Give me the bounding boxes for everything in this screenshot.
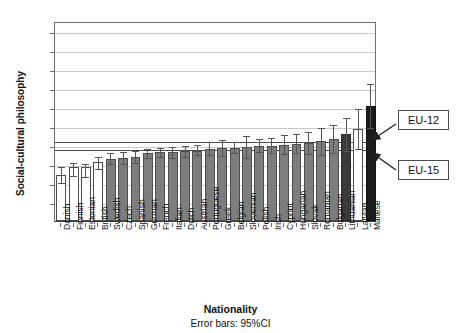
x-tick-label-german: German	[150, 199, 159, 230]
error-bar	[246, 136, 247, 158]
error-bar	[73, 163, 74, 176]
x-tick-label-romanian: Romanian	[323, 191, 332, 230]
chart-caption: Error bars: 95%CI	[0, 318, 461, 329]
error-cap-upper	[219, 140, 226, 141]
x-tick	[147, 223, 148, 227]
error-cap-lower	[58, 183, 65, 184]
error-bar	[135, 151, 136, 162]
error-bar	[147, 149, 148, 159]
x-tick-label-swedish: Swedish	[113, 198, 122, 230]
error-cap-lower	[343, 151, 350, 152]
error-cap-lower	[318, 155, 325, 156]
error-cap-upper	[157, 148, 164, 149]
error-cap-lower	[144, 158, 151, 159]
error-cap-upper	[268, 138, 275, 139]
x-tick	[73, 223, 74, 227]
bar-group	[267, 21, 277, 221]
error-cap-lower	[169, 158, 176, 159]
error-bar	[346, 118, 347, 150]
error-cap-lower	[182, 157, 189, 158]
error-cap-lower	[243, 158, 250, 159]
x-tick-label-danish: Danish	[63, 204, 72, 230]
error-bar	[110, 153, 111, 163]
error-cap-upper	[206, 142, 213, 143]
error-cap-upper	[169, 147, 176, 148]
error-bar	[271, 138, 272, 153]
x-tick	[357, 223, 358, 227]
error-cap-upper	[231, 142, 238, 143]
x-tick	[296, 223, 297, 227]
y-tick	[50, 71, 55, 72]
bar-group	[192, 21, 202, 221]
error-cap-lower	[355, 149, 362, 150]
x-tick	[283, 223, 284, 227]
x-tick	[135, 223, 136, 227]
error-cap-upper	[70, 163, 77, 164]
error-bar	[284, 135, 285, 154]
x-tick-label-french: French	[162, 204, 171, 230]
x-tick-label-czech: Czech	[125, 206, 134, 230]
error-cap-lower	[256, 152, 263, 153]
y-tick	[50, 128, 55, 129]
error-bar	[123, 152, 124, 163]
x-tick-label-dutch: Dutch	[187, 208, 196, 230]
error-bar	[259, 139, 260, 152]
error-cap-upper	[281, 135, 288, 136]
error-bar	[172, 147, 173, 158]
error-cap-lower	[120, 164, 127, 165]
y-tick	[50, 33, 55, 34]
bar-group	[168, 21, 178, 221]
y-tick	[50, 204, 55, 205]
bar-group	[155, 21, 165, 221]
bar-group	[366, 21, 376, 221]
x-tick	[122, 223, 123, 227]
x-tick-label-latvian: Latvian	[361, 203, 370, 230]
x-tick-label-belgian: Belgian	[237, 202, 246, 230]
x-tick-label-irish: Irish	[274, 214, 283, 230]
error-bar	[222, 140, 223, 156]
error-cap-upper	[367, 84, 374, 85]
y-tick	[50, 52, 55, 53]
error-cap-lower	[281, 154, 288, 155]
x-tick	[184, 223, 185, 227]
x-tick-label-british: British	[101, 206, 110, 230]
x-tick-label-bulgarian: Bulgarian	[336, 194, 345, 230]
error-cap-lower	[206, 155, 213, 156]
error-cap-lower	[268, 153, 275, 154]
error-cap-lower	[95, 169, 102, 170]
error-bar	[98, 157, 99, 168]
x-tick-label-maltese: Maltese	[373, 200, 382, 230]
error-cap-upper	[243, 136, 250, 137]
error-bar	[197, 145, 198, 155]
bar-group	[69, 21, 79, 221]
error-bar	[308, 132, 309, 154]
error-cap-upper	[355, 109, 362, 110]
bar-group	[279, 21, 289, 221]
bar-group	[106, 21, 116, 221]
error-cap-lower	[157, 157, 164, 158]
x-tick-label-portuguese: Portuguese	[212, 187, 221, 230]
x-tick	[234, 223, 235, 227]
x-tick	[345, 223, 346, 227]
error-cap-lower	[293, 153, 300, 154]
x-tick	[97, 223, 98, 227]
x-tick-label-hungarian: Hungarian	[299, 191, 308, 230]
callout-eu12: EU-12	[398, 110, 449, 130]
x-tick-label-spanish: Spanish	[138, 199, 147, 230]
error-bar	[333, 125, 334, 154]
y-tick	[50, 90, 55, 91]
bar-group	[254, 21, 264, 221]
x-tick-label-polish: Polish	[262, 207, 271, 230]
error-bar	[160, 148, 161, 158]
error-bar	[370, 84, 371, 128]
callout-eu15: EU-15	[398, 160, 449, 180]
x-tick-label-cypriot: Cypriot	[286, 203, 295, 230]
error-cap-upper	[318, 128, 325, 129]
x-axis-title: Nationality	[0, 303, 461, 315]
error-cap-lower	[132, 163, 139, 164]
error-cap-upper	[107, 153, 114, 154]
bar-group	[180, 21, 190, 221]
x-tick	[196, 223, 197, 227]
error-cap-upper	[194, 145, 201, 146]
x-tick	[333, 223, 334, 227]
